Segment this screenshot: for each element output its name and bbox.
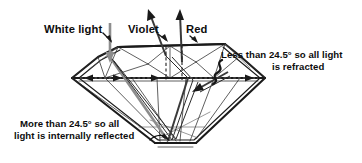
girdle-normal-arrow-midleft: [113, 75, 122, 82]
internal-reflection-bounce-1: [168, 78, 188, 141]
reflected-annotation-line2: light is internally reflected: [14, 130, 134, 141]
internal-reflection-bounce-1b: [172, 80, 193, 140]
refracted-annotation-line2: is refracted: [272, 61, 324, 72]
violet-arrowhead: [147, 9, 156, 21]
violet-leader-arrowhead: [161, 34, 168, 42]
red-label: Red: [186, 23, 208, 35]
reflected-annotation-line1: More than 24.5° so all: [20, 118, 119, 129]
violet-ray-line: [150, 14, 166, 56]
diamond-dispersion-diagram: White light Violet Red Less than 24.5° s…: [0, 0, 362, 163]
white-light-label: White light: [44, 23, 102, 35]
girdle-normal-arrow-right: [245, 75, 254, 82]
crown-facet-center-right: [170, 62, 214, 78]
internal-reflection-bounce-2: [166, 56, 188, 78]
internal-ray-b: [114, 61, 176, 139]
red-ray-line: [180, 14, 182, 62]
red-arrowhead: [176, 9, 185, 20]
girdle-normal-arrow-mid: [151, 75, 160, 82]
pavilion-facet-mid-left: [132, 78, 176, 141]
diagram-canvas: White light Violet Red Less than 24.5° s…: [0, 0, 362, 163]
girdle-normal-arrow-left: [84, 75, 93, 82]
refracted-escape-ray: [192, 60, 230, 92]
refracted-annotation-line1: Less than 24.5° so all light: [221, 49, 343, 60]
crown-facet-center-left: [148, 46, 170, 78]
violet-label: Violet: [128, 23, 159, 35]
